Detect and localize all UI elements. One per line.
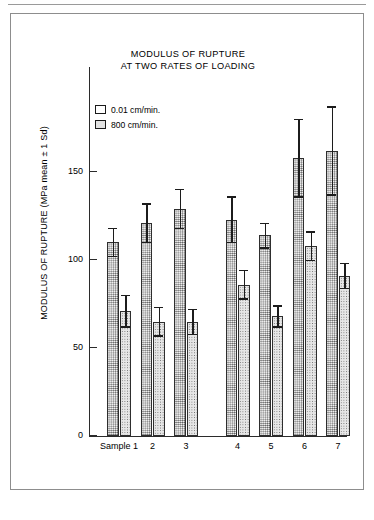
error-bar-line: [146, 203, 147, 242]
error-bar-line: [311, 231, 312, 259]
error-bar-cap-upper: [239, 270, 248, 271]
error-bar-cap-upper: [273, 305, 282, 306]
bar-series1-sample2: [141, 223, 153, 436]
error-bar-cap-lower: [142, 242, 151, 243]
error-bar-cap-lower: [154, 335, 163, 336]
bar-series1-sample3: [174, 209, 186, 436]
error-bar-cap-lower: [121, 326, 130, 327]
error-bar-cap-upper: [306, 231, 315, 232]
error-bar-cap-upper: [327, 106, 336, 107]
error-bar-cap-lower: [239, 298, 248, 299]
bar-series2-sample4: [238, 285, 250, 436]
error-bar-cap-upper: [227, 196, 236, 197]
error-bar-cap-lower: [227, 242, 236, 243]
error-bar-cap-upper: [294, 119, 303, 120]
figure-page: MODULUS OF RUPTURE AT TWO RATES OF LOADI…: [0, 0, 374, 520]
error-bar-line: [180, 189, 181, 228]
bar-series2-sample6: [305, 246, 317, 436]
error-bar-cap-upper: [121, 295, 130, 296]
error-bar-cap-upper: [108, 228, 117, 229]
error-bar-line: [277, 305, 278, 326]
bar-series2-sample2: [153, 322, 165, 436]
error-bar-cap-upper: [175, 189, 184, 190]
bar-series1-sample6: [293, 158, 305, 436]
error-bar-line: [125, 295, 126, 327]
x-tick-label-sample-3: 3: [166, 441, 206, 451]
bar-series2-sample1: [120, 311, 132, 436]
y-tick-label-50: 50: [53, 342, 83, 352]
bar-series2-sample7: [339, 276, 351, 436]
bar-group-container: [89, 14, 347, 436]
figure-frame: MODULUS OF RUPTURE AT TWO RATES OF LOADI…: [10, 13, 364, 490]
error-bar-cap-lower: [175, 228, 184, 229]
y-axis-title: MODULUS OF RUPTURE (MPa mean ± 1 Sd): [39, 98, 49, 348]
error-bar-cap-upper: [260, 223, 269, 224]
bar-series2-sample3: [187, 322, 199, 436]
bar-chart: MODULUS OF RUPTURE AT TWO RATES OF LOADI…: [11, 14, 365, 491]
error-bar-cap-lower: [327, 194, 336, 195]
top-rule-divider: [8, 4, 366, 5]
x-tick-label-sample-7: 7: [318, 441, 358, 451]
error-bar-cap-lower: [188, 334, 197, 335]
y-tick-label-100: 100: [53, 254, 83, 264]
error-bar-cap-lower: [306, 260, 315, 261]
error-bar-cap-lower: [294, 196, 303, 197]
error-bar-line: [298, 119, 299, 196]
y-tick-label-0: 0: [53, 430, 83, 440]
error-bar-cap-lower: [260, 247, 269, 248]
error-bar-cap-upper: [340, 263, 349, 264]
bar-series2-sample5: [272, 316, 284, 436]
error-bar-line: [192, 309, 193, 334]
error-bar-cap-upper: [188, 309, 197, 310]
error-bar-line: [244, 270, 245, 298]
error-bar-line: [265, 223, 266, 248]
error-bar-line: [332, 106, 333, 194]
error-bar-cap-upper: [154, 307, 163, 308]
error-bar-line: [159, 307, 160, 335]
error-bar-line: [344, 263, 345, 288]
error-bar-cap-lower: [108, 256, 117, 257]
bar-series1-sample4: [226, 220, 238, 436]
bar-series1-sample5: [259, 235, 271, 436]
error-bar-line: [231, 196, 232, 242]
y-tick-label-150: 150: [53, 166, 83, 176]
bar-series1-sample1: [107, 242, 119, 436]
error-bar-cap-upper: [142, 203, 151, 204]
error-bar-line: [113, 228, 114, 256]
error-bar-cap-lower: [273, 326, 282, 327]
error-bar-cap-lower: [340, 288, 349, 289]
